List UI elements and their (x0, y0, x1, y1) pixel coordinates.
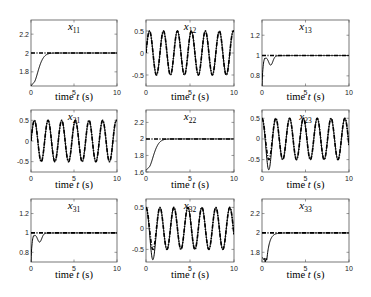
x-axis-label: time t (s) (171, 269, 209, 281)
x-tick-label: 0 (260, 89, 264, 96)
x-axis-label: time t (s) (55, 269, 93, 281)
subplot-x32: 0510-0.500.5x32time t (s) (132, 199, 238, 281)
x-tick-label: 0 (144, 89, 148, 96)
y-tick-label: 2.2 (134, 119, 144, 126)
subplot-x11: 05101.822.2x11time t (s) (19, 20, 121, 103)
y-tick-label: 1 (25, 229, 29, 236)
subplot-x33: 05101.822.2x33time t (s) (250, 199, 353, 281)
y-tick-label: 0.5 (134, 28, 144, 35)
x-tick-label: 0 (29, 265, 33, 272)
x-tick-label: 0 (260, 265, 264, 272)
x-tick-label: 0 (29, 89, 33, 96)
y-tick-label: -0.5 (248, 156, 260, 163)
y-tick-label: 0 (140, 225, 144, 232)
y-tick-label: 2.2 (19, 31, 29, 38)
y-tick-label: -0.5 (132, 246, 144, 253)
subplot-x12: 0510-0.500.5x12time t (s) (132, 20, 238, 103)
y-tick-label: 2 (256, 229, 260, 236)
y-tick-label: 0.5 (19, 117, 29, 124)
x-tick-label: 10 (113, 89, 121, 96)
y-tick-label: -0.5 (132, 72, 144, 79)
y-tick-label: 0.8 (250, 72, 260, 79)
subplot-grid: 05101.822.2x11time t (s)0510-0.500.5x12t… (0, 0, 371, 297)
y-tick-label: 0.8 (19, 249, 29, 256)
x-axis-label: time t (s) (55, 179, 93, 191)
x-tick-label: 10 (230, 265, 238, 272)
y-tick-label: 0.5 (134, 204, 144, 211)
x-tick-label: 0 (260, 175, 264, 182)
y-tick-label: 0.5 (250, 115, 260, 122)
x-tick-label: 10 (345, 175, 353, 182)
x-tick-label: 10 (345, 89, 353, 96)
subplot-x31: 05100.811.2x31time t (s) (19, 199, 121, 281)
x-axis-label: time t (s) (287, 269, 325, 281)
x-tick-label: 0 (144, 175, 148, 182)
x-axis-label: time t (s) (287, 179, 325, 191)
y-tick-label: 1.8 (250, 249, 260, 256)
x-axis-label: time t (s) (171, 179, 209, 191)
y-tick-label: 2 (25, 50, 29, 57)
y-tick-label: 2 (140, 135, 144, 142)
y-tick-label: 0 (25, 138, 29, 145)
x-tick-label: 10 (113, 265, 121, 272)
x-axis-label: time t (s) (287, 91, 325, 103)
y-tick-label: 1.8 (134, 152, 144, 159)
x-tick-label: 10 (230, 175, 238, 182)
x-tick-label: 10 (113, 175, 121, 182)
subplot-x22: 05101.61.822.2x22time t (s) (134, 110, 238, 191)
y-tick-label: 0 (140, 50, 144, 57)
x-tick-label: 0 (144, 265, 148, 272)
subplot-x21: 0510-0.500.5x21time t (s) (17, 110, 121, 191)
x-axis-label: time t (s) (55, 91, 93, 103)
x-tick-label: 10 (345, 265, 353, 272)
y-tick-label: 1 (256, 52, 260, 59)
x-tick-label: 10 (230, 89, 238, 96)
y-tick-label: 1.2 (250, 32, 260, 39)
y-tick-label: 1.8 (19, 68, 29, 75)
subplot-x23: 0510-0.500.5x23time t (s) (248, 110, 353, 191)
y-tick-label: 1.6 (134, 169, 144, 176)
subplot-x13: 05100.811.2x13time t (s) (250, 20, 353, 103)
y-tick-label: 0 (256, 135, 260, 142)
x-axis-label: time t (s) (171, 91, 209, 103)
x-tick-label: 0 (29, 175, 33, 182)
y-tick-label: -0.5 (17, 158, 29, 165)
y-tick-label: 2.2 (250, 210, 260, 217)
y-tick-label: 1.2 (19, 210, 29, 217)
